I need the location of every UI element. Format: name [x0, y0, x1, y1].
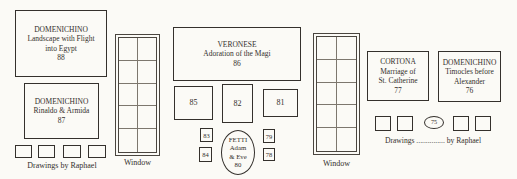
painting-box-86: VERONESE Adoration of the Magi 86 — [173, 27, 301, 81]
drawing-frame — [397, 116, 413, 131]
painting-number: 80 — [235, 161, 242, 169]
painting-artist: VERONESE — [217, 40, 256, 50]
drawing-frame — [88, 145, 106, 158]
window-label-right: Window — [313, 159, 360, 168]
painting-artist: FETTI — [229, 136, 248, 144]
painting-number: 79 — [266, 133, 273, 140]
painting-number: 78 — [266, 151, 273, 158]
painting-title-line: Timocles before — [445, 67, 494, 77]
painting-number: 88 — [57, 53, 65, 63]
painting-number: 87 — [58, 116, 66, 126]
painting-box-78: 78 — [263, 148, 275, 161]
painting-title-line: Adam — [230, 144, 247, 152]
drawing-frame — [453, 116, 469, 131]
painting-box-81: 81 — [263, 89, 298, 117]
painting-artist: DOMENICHINO — [34, 25, 88, 35]
window-right — [313, 33, 360, 155]
window-pane — [119, 38, 138, 61]
window-pane — [138, 61, 157, 84]
window-pane — [337, 83, 357, 106]
window-pane — [317, 37, 337, 60]
drawing-frame — [15, 145, 32, 158]
window-pane — [337, 128, 357, 151]
window-pane — [119, 129, 138, 152]
window-pane — [317, 105, 337, 128]
painting-number: 86 — [233, 59, 241, 69]
drawings-by-raphael-label-left: Drawings by Raphael — [14, 161, 110, 170]
painting-box-77: CORTONA Marriage of St. Catherine 77 — [367, 51, 429, 101]
drawing-frame — [38, 145, 55, 158]
painting-box-76: DOMENICHINO Timocles before Alexander 76 — [438, 51, 501, 102]
painting-artist: DOMENICHINO — [35, 97, 89, 107]
drawings-by-raphael-label-right: Drawings ............... by Raphael — [372, 136, 494, 145]
painting-box-79: 79 — [263, 129, 275, 143]
painting-box-88: DOMENICHINO Landscape with Flight into E… — [15, 10, 107, 77]
window-pane — [119, 61, 138, 84]
painting-title-line: Rinaldo & Armida — [34, 106, 90, 116]
painting-title-line: & Eve — [229, 153, 247, 161]
window-left-grid — [118, 37, 157, 153]
window-pane — [119, 106, 138, 129]
drawing-frame — [375, 116, 391, 131]
painting-number: 84 — [202, 151, 209, 158]
painting-number: 85 — [190, 98, 198, 108]
painting-title-line: Adoration of the Magi — [203, 49, 270, 59]
window-left — [115, 34, 160, 156]
painting-number: 77 — [394, 86, 402, 96]
drawing-frame — [475, 116, 491, 131]
painting-oval-80: FETTI Adam & Eve 80 — [221, 130, 255, 175]
window-right-grid — [316, 36, 357, 152]
window-pane — [138, 38, 157, 61]
window-pane — [317, 128, 337, 151]
drawing-frame — [63, 145, 81, 158]
window-pane — [317, 83, 337, 106]
painting-artist: CORTONA — [380, 57, 416, 67]
painting-oval-75: 75 — [424, 116, 444, 129]
window-pane — [337, 37, 357, 60]
window-pane — [119, 84, 138, 107]
painting-artist: DOMENICHINO — [443, 58, 497, 68]
painting-box-82: 82 — [222, 84, 253, 123]
painting-box-85: 85 — [174, 86, 213, 120]
painting-number: 82 — [234, 99, 242, 109]
gallery-wall-hanging-diagram: DOMENICHINO Landscape with Flight into E… — [0, 0, 517, 179]
painting-title-line: into Egypt — [45, 44, 76, 54]
painting-title-line: Marriage of — [380, 67, 416, 77]
window-pane — [138, 129, 157, 152]
painting-box-83: 83 — [200, 128, 213, 142]
window-pane — [337, 60, 357, 83]
painting-title-line: Landscape with Flight — [27, 34, 94, 44]
window-pane — [138, 106, 157, 129]
painting-number: 81 — [277, 98, 285, 108]
painting-title-line: Alexander — [454, 77, 485, 87]
painting-title-line: St. Catherine — [378, 76, 417, 86]
painting-number: 75 — [431, 118, 437, 126]
window-pane — [337, 105, 357, 128]
window-label-left: Window — [115, 158, 160, 167]
painting-number: 83 — [203, 132, 210, 139]
painting-number: 76 — [466, 86, 474, 96]
painting-box-87: DOMENICHINO Rinaldo & Armida 87 — [24, 83, 99, 139]
window-pane — [138, 84, 157, 107]
painting-box-84: 84 — [199, 147, 212, 162]
window-pane — [317, 60, 337, 83]
